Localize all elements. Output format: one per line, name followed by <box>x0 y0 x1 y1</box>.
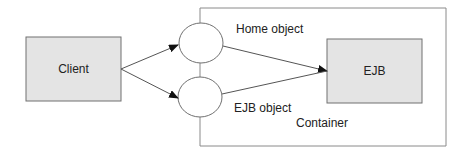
home-object-label: Home object <box>236 22 303 36</box>
edge-home-object-to-ejb <box>223 46 327 71</box>
ejb-object-circle <box>178 77 222 117</box>
home-object-circle <box>179 23 223 63</box>
client-label: Client <box>26 37 121 101</box>
edge-ejb-object-to-ejb <box>222 71 327 94</box>
container-label: Container <box>296 116 348 130</box>
ejb-object-label: EJB object <box>234 101 291 115</box>
edge-client-to-ejb-object <box>121 69 178 98</box>
ejb-label: EJB <box>327 39 422 103</box>
edge-client-to-home-object <box>121 45 178 69</box>
